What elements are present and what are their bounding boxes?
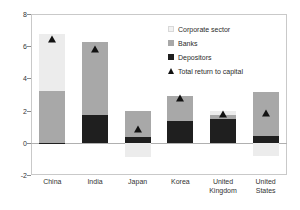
- bar-segment-depositors: [82, 115, 108, 143]
- total-return-marker: [48, 36, 56, 43]
- legend-swatch-square-black: [168, 54, 174, 60]
- bar-segment-corporate: [253, 143, 279, 157]
- zero-baseline: [31, 143, 287, 144]
- legend-swatch-square-medium-gray: [168, 40, 174, 46]
- chart-container: -202468 ChinaIndiaJapanKoreaUnitedKingdo…: [0, 0, 300, 210]
- bar-segment-banks: [125, 111, 151, 137]
- bar-segment-depositors: [253, 136, 279, 143]
- legend-label: Corporate sector: [178, 26, 230, 33]
- total-return-marker: [176, 95, 184, 102]
- y-tick-mark: [27, 14, 31, 15]
- total-return-marker: [91, 45, 99, 52]
- bar-segment-corporate: [125, 143, 151, 157]
- total-return-marker: [262, 110, 270, 117]
- legend-item: Banks: [168, 37, 286, 49]
- legend-label: Total return to capital: [178, 68, 243, 75]
- bar-segment-banks: [39, 91, 65, 143]
- legend-label: Depositors: [178, 54, 211, 61]
- legend-label: Banks: [178, 40, 197, 47]
- legend-item: Total return to capital: [168, 65, 286, 77]
- bar-segment-banks: [82, 42, 108, 114]
- y-tick-mark: [27, 143, 31, 144]
- y-tick-mark: [27, 46, 31, 47]
- total-return-marker: [219, 111, 227, 118]
- chart-legend: Corporate sectorBanksDepositorsTotal ret…: [168, 23, 286, 79]
- y-tick-mark: [27, 175, 31, 176]
- y-tick-mark: [27, 111, 31, 112]
- bar-segment-depositors: [210, 119, 236, 142]
- bar-segment-depositors: [39, 143, 65, 144]
- legend-item: Depositors: [168, 51, 286, 63]
- y-tick-mark: [27, 78, 31, 79]
- x-tick-label: UnitedStates: [238, 178, 294, 195]
- legend-swatch-square-light-gray: [168, 26, 174, 32]
- bar-segment-depositors: [167, 121, 193, 143]
- total-return-marker: [134, 126, 142, 133]
- legend-item: Corporate sector: [168, 23, 286, 35]
- legend-swatch-triangle-up-black: [168, 68, 174, 74]
